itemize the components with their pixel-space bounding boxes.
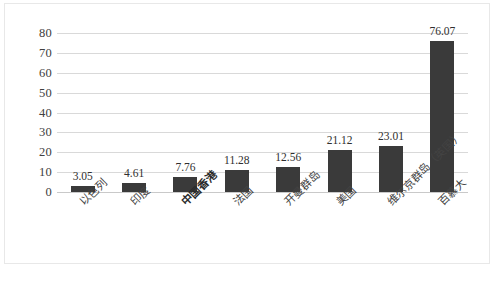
- gridline: [57, 113, 468, 114]
- y-axis-tick-10: 10: [8, 166, 52, 179]
- gridline: [57, 53, 468, 54]
- y-axis-tick-80: 80: [8, 27, 52, 40]
- y-axis-tick-20: 20: [8, 146, 52, 159]
- bar-value-label: 23.01: [361, 131, 421, 143]
- y-axis-tick-40: 40: [8, 107, 52, 120]
- y-axis-tick-30: 30: [8, 126, 52, 139]
- y-axis-tick-labels: 80706050403020100: [0, 33, 52, 192]
- y-axis-tick-0: 0: [8, 186, 52, 199]
- gridline: [57, 93, 468, 94]
- bar: [430, 41, 454, 192]
- y-axis-tick-70: 70: [8, 47, 52, 60]
- y-axis-tick-60: 60: [8, 67, 52, 80]
- gridline: [57, 33, 468, 34]
- bar-value-label: 12.56: [258, 152, 318, 164]
- bar-chart: 80706050403020100 3.054.617.7611.2812.56…: [0, 0, 495, 298]
- gridline: [57, 73, 468, 74]
- bar-value-label: 76.07: [412, 26, 472, 38]
- y-axis-tick-50: 50: [8, 87, 52, 100]
